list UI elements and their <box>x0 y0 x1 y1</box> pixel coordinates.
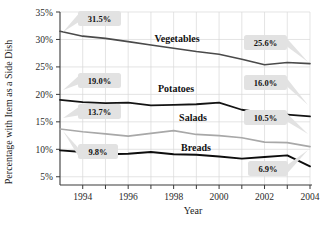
callout-tail <box>63 15 78 33</box>
callout-value: 25.6% <box>254 38 277 48</box>
y-tick-label: 5% <box>40 172 53 182</box>
callout-value: 9.8% <box>88 147 107 157</box>
y-axis-title: Percentage with Item as a Side Dish <box>3 40 14 184</box>
callout-19-0: 19.0% <box>63 73 121 90</box>
callout-31-5: 31.5% <box>63 11 121 32</box>
y-tick-label: 25% <box>36 62 54 72</box>
x-tick-label: 1996 <box>119 192 138 202</box>
callout-16-0: 16.0% <box>244 75 308 105</box>
x-tick-label: 1994 <box>73 192 92 202</box>
callout-tail <box>63 108 78 119</box>
series-label-potatoes: Potatoes <box>158 83 194 94</box>
chart-figure: 5%10%15%20%25%30%35% 1994199619982000200… <box>0 0 330 225</box>
callout-25-6: 25.6% <box>244 35 308 62</box>
callout-13-7: 13.7% <box>63 104 121 119</box>
x-tick-label: 2004 <box>301 192 320 202</box>
callout-tail <box>63 77 78 91</box>
y-tick-label: 20% <box>36 90 54 100</box>
x-axis-title: Year <box>184 205 203 216</box>
y-tick-label: 15% <box>36 117 54 127</box>
callout-value: 31.5% <box>88 14 111 24</box>
callout-value: 13.7% <box>88 107 111 117</box>
callout-9-8: 9.8% <box>63 131 118 159</box>
line-chart-canvas: 5%10%15%20%25%30%35% 1994199619982000200… <box>0 0 330 225</box>
callout-value: 16.0% <box>254 78 277 88</box>
y-tick-label: 35% <box>36 8 54 18</box>
series-label-vegetables: Vegetables <box>154 33 199 44</box>
callout-tail <box>288 150 308 173</box>
y-axis-tick-labels: 5%10%15%20%25%30%35% <box>36 8 54 183</box>
x-tick-label: 1998 <box>164 192 183 202</box>
y-tick-label: 30% <box>36 35 54 45</box>
series-label-breads: Breads <box>181 142 211 153</box>
x-tick-label: 2000 <box>210 192 229 202</box>
callout-6-9: 6.9% <box>248 150 308 176</box>
x-tick-label: 2002 <box>255 192 274 202</box>
y-tick-label: 10% <box>36 145 54 155</box>
callout-value: 19.0% <box>88 76 111 86</box>
callout-value: 10.5% <box>254 113 277 123</box>
x-axis-tick-labels: 199419961998200020022004 <box>73 192 320 202</box>
series-label-salads: Salads <box>179 112 207 123</box>
callout-tail <box>287 39 308 63</box>
callout-tail <box>287 79 308 106</box>
callout-value: 6.9% <box>258 164 277 174</box>
